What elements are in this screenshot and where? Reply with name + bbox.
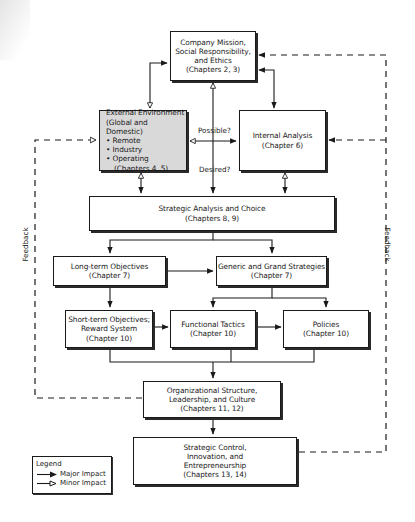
generic-line-2: (Chapter 7) — [251, 271, 292, 280]
functional-tactics-box: Functional Tactics (Chapter 10) — [170, 310, 256, 348]
feedback-label-right: Feedback — [383, 227, 392, 261]
generic-strategies-box: Generic and Grand Strategies (Chapter 7) — [216, 256, 327, 286]
legend-minor-label: Minor Impact — [60, 479, 106, 489]
control-line-3: Entrepreneurship — [184, 461, 246, 470]
mission-line-2: Social Responsibility, — [175, 47, 251, 56]
org-line-3: (Chapters 11, 12) — [180, 404, 243, 413]
external-bullet-operating: • Operating — [106, 154, 149, 163]
strategic-control-box: Strategic Control, Innovation, and Entre… — [133, 437, 297, 485]
policies-box: Policies (Chapter 10) — [283, 310, 369, 348]
internal-line-1: Internal Analysis — [253, 131, 313, 140]
control-line-1: Strategic Control, — [183, 443, 246, 452]
mission-box: Company Mission, Social Responsibility, … — [170, 31, 256, 81]
short-term-line-1: Short-term Objectives; — [68, 315, 150, 324]
mission-line-3: and Ethics — [194, 56, 231, 65]
control-line-4: (Chapters 13, 14) — [183, 470, 246, 479]
generic-line-1: Generic and Grand Strategies — [218, 262, 325, 271]
policies-line-2: (Chapter 10) — [303, 329, 349, 338]
possible-label: Possible? — [198, 126, 231, 135]
long-term-line-2: (Chapter 7) — [89, 271, 130, 280]
org-structure-box: Organizational Structure, Leadership, an… — [143, 381, 281, 418]
strategic-line-2: (Chapters 8, 9) — [185, 214, 239, 223]
short-term-line-2: Reward System — [81, 324, 137, 333]
major-impact-arrow-icon — [36, 471, 58, 478]
feedback-label-left: Feedback — [21, 227, 30, 261]
org-line-2: Leadership, and Culture — [169, 395, 255, 404]
internal-analysis-box: Internal Analysis (Chapter 6) — [239, 110, 326, 171]
legend-title: Legend — [36, 460, 108, 470]
desired-label: Desired? — [199, 165, 230, 174]
external-title-1: External Environment — [106, 108, 184, 117]
mission-line-4: (Chapters 2, 3) — [186, 65, 240, 74]
external-environment-box: External Environment (Global and Domesti… — [99, 110, 187, 171]
strategic-analysis-box: Strategic Analysis and Choice (Chapters … — [89, 196, 335, 231]
external-bullet-industry: • Industry — [106, 145, 142, 154]
short-term-line-3: (Chapter 10) — [86, 334, 132, 343]
short-term-objectives-box: Short-term Objectives; Reward System (Ch… — [65, 310, 153, 348]
legend-major-label: Major Impact — [60, 470, 106, 480]
minor-impact-arrow-icon — [36, 480, 58, 487]
external-bullet-remote: • Remote — [106, 136, 140, 145]
internal-line-2: (Chapter 6) — [262, 141, 303, 150]
external-title-2: (Global and Domestic) — [106, 118, 186, 136]
external-chapters: (Chapters 4, 5) — [106, 164, 168, 173]
mission-line-1: Company Mission, — [180, 38, 246, 47]
legend-box: Legend Major Impact Minor Impact — [32, 456, 112, 494]
strategic-line-1: Strategic Analysis and Choice — [159, 204, 266, 213]
long-term-objectives-box: Long-term Objectives (Chapter 7) — [53, 256, 166, 286]
control-line-2: Innovation, and — [187, 452, 243, 461]
long-term-line-1: Long-term Objectives — [71, 262, 148, 271]
functional-line-2: (Chapter 10) — [190, 329, 236, 338]
legend-major-row: Major Impact — [36, 470, 108, 480]
functional-line-1: Functional Tactics — [181, 320, 244, 329]
legend-minor-row: Minor Impact — [36, 479, 108, 489]
policies-line-1: Policies — [313, 320, 340, 329]
org-line-1: Organizational Structure, — [167, 386, 257, 395]
